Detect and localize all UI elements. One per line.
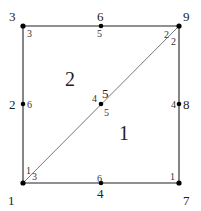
global-label-9: 9 bbox=[183, 9, 190, 24]
node-8 bbox=[177, 102, 182, 107]
e1-local-at-node-4: 6 bbox=[97, 173, 102, 184]
e2-local-at-node-2: 6 bbox=[27, 99, 32, 110]
node-1 bbox=[20, 180, 25, 185]
global-label-3: 3 bbox=[9, 9, 16, 24]
global-label-6: 6 bbox=[97, 9, 104, 24]
e1-local-at-node-7: 1 bbox=[170, 171, 175, 182]
element-label-1: 1 bbox=[119, 122, 129, 144]
node-5 bbox=[99, 102, 104, 107]
node-2 bbox=[21, 102, 26, 107]
e2-local-at-node-9: 2 bbox=[164, 29, 169, 40]
global-label-1: 1 bbox=[8, 193, 15, 208]
node-9 bbox=[176, 23, 181, 28]
element-label-2: 2 bbox=[65, 68, 75, 90]
global-label-5: 5 bbox=[102, 86, 109, 101]
e1-local-at-node-9: 2 bbox=[171, 36, 176, 47]
e2-local-at-node-5: 4 bbox=[92, 93, 97, 104]
global-label-8: 8 bbox=[183, 97, 190, 112]
node-3 bbox=[20, 23, 25, 28]
e2-local-at-node-1: 1 bbox=[26, 165, 31, 176]
e2-local-at-node-3: 3 bbox=[27, 28, 32, 39]
node-7 bbox=[176, 180, 181, 185]
e1-local-at-node-5: 5 bbox=[104, 107, 109, 118]
global-label-4: 4 bbox=[97, 186, 104, 201]
global-label-7: 7 bbox=[183, 193, 190, 208]
e2-local-at-node-6: 5 bbox=[97, 28, 102, 39]
e1-local-at-node-1: 3 bbox=[32, 171, 37, 182]
e1-local-at-node-8: 4 bbox=[171, 99, 176, 110]
global-label-2: 2 bbox=[9, 97, 16, 112]
fem-mesh-diagram: 1 2 3 4 5 6 7 8 9 3 1 2 6 4 5 1 3 2 5 6 … bbox=[0, 0, 201, 211]
